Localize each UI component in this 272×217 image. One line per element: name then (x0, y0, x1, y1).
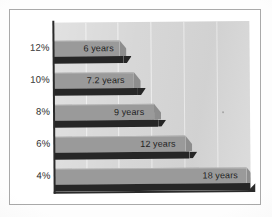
bar-value-label: 9 years (114, 106, 144, 118)
bar-front-cap (189, 152, 197, 159)
bar-value-label: 7.2 years (87, 74, 125, 86)
bar-front-cap (124, 56, 132, 63)
y-tick-label-10: 10% (12, 75, 50, 85)
bar-row: 6 years (53, 40, 119, 67)
bar-top-cap (134, 72, 141, 88)
bar-value-label: 6 years (83, 42, 113, 54)
gridline-4 (183, 22, 185, 191)
y-tick-label-8: 8% (12, 107, 50, 117)
bar-row: 12 years (54, 136, 185, 163)
y-tick-label-4: 4% (12, 171, 50, 181)
bar-front-face (54, 152, 189, 160)
x-axis-line (54, 190, 253, 194)
bar-top-cap (246, 167, 250, 183)
bar-front-face (54, 120, 158, 128)
bar-top-cap (119, 40, 126, 56)
bar-top-cap (154, 104, 161, 120)
gridline-5 (216, 21, 218, 190)
y-axis-labels: 12% 10% 8% 6% 4% (11, 13, 51, 205)
y-tick-label-6: 6% (12, 139, 50, 149)
bar-front-cap (158, 120, 166, 127)
plot-area: 6 years 7.2 years 9 years (53, 21, 250, 192)
bar-row: 18 years (54, 167, 246, 192)
bar-top-cap (185, 136, 192, 152)
bar-front-face (54, 56, 124, 64)
scanned-page: 12% 10% 8% 6% 4% 6 years (0, 0, 272, 217)
bar-row: 7.2 years (54, 72, 134, 99)
y-tick-label-12: 12% (11, 43, 49, 53)
bar-value-label: 12 years (140, 138, 175, 150)
bar-chart: 12% 10% 8% 6% 4% 6 years (11, 11, 261, 205)
scan-artifact-speck (222, 111, 224, 113)
bar-value-label: 18 years (202, 169, 237, 181)
bar-row: 9 years (54, 104, 154, 131)
bar-front-face (54, 88, 138, 96)
bar-front-cap (138, 88, 146, 95)
